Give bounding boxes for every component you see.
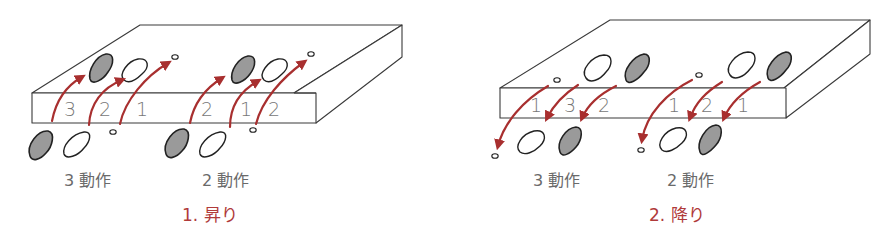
cane-tip-icon xyxy=(492,154,498,159)
cane-tip-icon xyxy=(250,128,256,133)
ascend-step-block xyxy=(32,25,402,123)
ascend-3-motion-label: 3 動作 xyxy=(64,167,111,191)
cane-tip-icon xyxy=(110,130,116,135)
ascend-2-motion-label: 2 動作 xyxy=(202,167,249,191)
ascend-caption: 1. 昇り xyxy=(182,201,238,226)
cane-tip-icon xyxy=(554,78,560,83)
step-number: 2 xyxy=(701,94,713,116)
cane-tip-icon xyxy=(172,55,178,60)
outline-foot-icon xyxy=(200,132,226,157)
cane-tip-icon xyxy=(696,73,702,78)
step-number: 1 xyxy=(136,98,148,120)
step-number: 1 xyxy=(240,98,252,120)
shaded-foot-icon xyxy=(29,131,52,160)
outline-foot-icon xyxy=(660,128,686,152)
outline-foot-icon xyxy=(518,131,544,154)
step-number: 3 xyxy=(64,98,76,120)
step-number: 2 xyxy=(268,98,280,120)
shaded-foot-icon xyxy=(559,127,581,155)
stair-gait-diagram: 3 2 1 2 1 2 xyxy=(0,0,884,240)
step-number: 1 xyxy=(668,94,680,116)
descend-3-motion-label: 3 動作 xyxy=(533,167,580,191)
descend-2-motion-label: 2 動作 xyxy=(667,167,714,191)
cane-tip-icon xyxy=(308,52,314,57)
outline-foot-icon xyxy=(64,132,90,157)
step-number: 2 xyxy=(598,94,610,116)
descend-panel: 1 3 2 1 2 1 xyxy=(492,20,870,158)
step-number: 2 xyxy=(99,98,111,120)
step-number: 2 xyxy=(201,98,213,120)
ascend-panel: 3 2 1 2 1 2 xyxy=(29,25,402,160)
cane-tip-icon xyxy=(638,148,644,153)
descend-caption: 2. 降り xyxy=(649,201,705,226)
shaded-foot-icon xyxy=(165,129,188,158)
shaded-foot-icon xyxy=(699,125,721,154)
step-number: 1 xyxy=(530,94,542,116)
step-number: 3 xyxy=(564,94,576,116)
step-number: 1 xyxy=(737,94,749,116)
